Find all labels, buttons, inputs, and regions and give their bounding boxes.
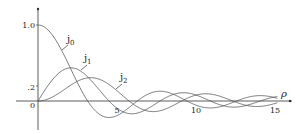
label-j1: j1 (83, 52, 92, 66)
x-axis-arrow-dot (289, 100, 291, 102)
x-tick-10: 10 (191, 106, 201, 115)
origin-label: 0 (30, 101, 35, 110)
bessel-chart: 1.0 .2 0 5 10 15 ρ j0 j1 j2 (0, 0, 306, 134)
x-tick-5: 5 (114, 106, 119, 115)
y-axis-arrow-dot (37, 8, 39, 10)
x-tick-15: 15 (270, 106, 280, 115)
label-j0: j0 (66, 33, 75, 47)
y-tick-1: 1.0 (22, 21, 35, 30)
y-tick-0.2: .2 (27, 83, 35, 92)
label-j2: j2 (119, 71, 128, 85)
x-axis-label-rho: ρ (280, 88, 287, 99)
